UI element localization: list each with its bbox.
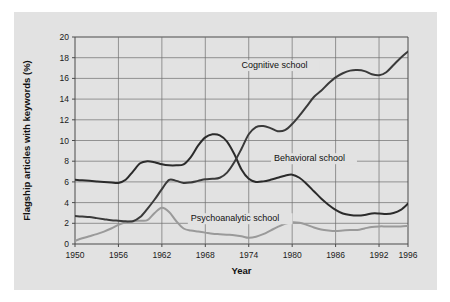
x-tick-label: 1968: [196, 250, 215, 260]
x-tick-label: 1980: [283, 250, 302, 260]
x-tick-label: 1962: [152, 250, 171, 260]
series-label-cognitive-school: Cognitive school: [242, 60, 308, 70]
figure-panel: 0246810121416182019501956196219681974198…: [14, 12, 437, 290]
series-label-psychoanalytic-school: Psychoanalytic school: [191, 213, 280, 223]
y-tick-label: 20: [60, 32, 70, 42]
y-tick-label: 6: [64, 177, 69, 187]
y-tick-label: 2: [64, 218, 69, 228]
y-tick-label: 16: [60, 73, 70, 83]
y-tick-label: 0: [64, 239, 69, 249]
chart-plot-area: 0246810121416182019501956196219681974198…: [14, 12, 437, 290]
x-tick-label: 1996: [399, 250, 418, 260]
y-tick-label: 18: [60, 53, 70, 63]
x-tick-label: 1986: [326, 250, 345, 260]
y-tick-label: 8: [64, 156, 69, 166]
x-tick-label: 1956: [109, 250, 128, 260]
x-tick-label: 1974: [239, 250, 258, 260]
y-tick-label: 4: [64, 198, 69, 208]
x-tick-label: 1950: [66, 250, 85, 260]
y-tick-label: 10: [60, 136, 70, 146]
x-axis-title: Year: [231, 265, 251, 276]
line-chart: 0246810121416182019501956196219681974198…: [14, 12, 437, 290]
x-tick-label: 1992: [370, 250, 389, 260]
y-tick-label: 14: [60, 94, 70, 104]
y-tick-label: 12: [60, 115, 70, 125]
y-axis-title: Flagship articles with keywords (%): [21, 60, 32, 220]
series-label-behavioral-school: Behavioral school: [274, 153, 345, 163]
